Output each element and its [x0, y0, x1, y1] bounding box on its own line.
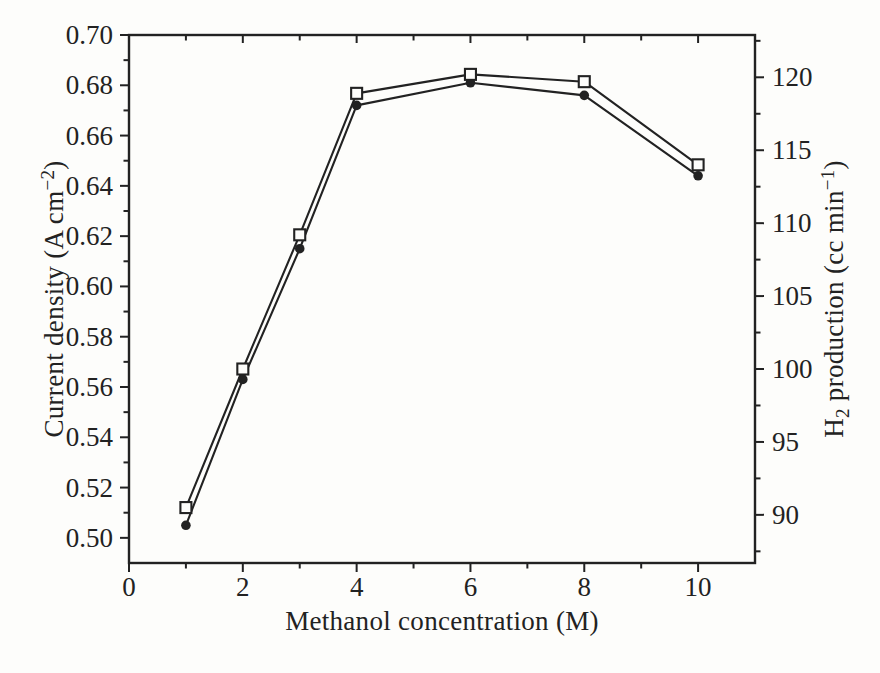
filled-circle-marker: [181, 520, 191, 530]
filled-circle-marker: [579, 91, 589, 101]
x-tick-label: 10: [685, 572, 712, 602]
right-tick-label: 95: [772, 427, 799, 457]
x-tick-label: 0: [122, 572, 136, 602]
open-square-marker: [465, 69, 476, 80]
left-tick-label: 0.56: [66, 372, 113, 402]
open-square-marker: [579, 76, 590, 87]
filled-circle-marker: [295, 244, 305, 254]
open-square-marker: [351, 88, 362, 99]
left-tick-label: 0.52: [66, 473, 113, 503]
chart-figure: 02468100.500.520.540.560.580.600.620.640…: [0, 0, 880, 673]
open-square-marker: [294, 229, 305, 240]
right-tick-label: 90: [772, 500, 799, 530]
right-tick-label: 105: [772, 281, 813, 311]
right-tick-label: 100: [772, 354, 813, 384]
series-line-current-density: [186, 83, 698, 526]
left-tick-label: 0.62: [66, 221, 113, 251]
left-tick-label: 0.68: [66, 70, 113, 100]
series-markers-h2-production: [180, 69, 703, 513]
left-tick-label: 0.64: [66, 171, 114, 201]
series-markers-current-density: [181, 78, 703, 530]
right-axis-title: H2 production (cc min−1): [817, 160, 853, 438]
x-tick-label: 6: [464, 572, 478, 602]
left-tick-labels: 0.500.520.540.560.580.600.620.640.660.68…: [66, 20, 114, 553]
plot-frame: [129, 35, 755, 563]
x-tick-label: 4: [350, 572, 364, 602]
left-tick-label: 0.58: [66, 322, 113, 352]
left-tick-label: 0.50: [66, 523, 113, 553]
right-tick-label: 110: [772, 208, 812, 238]
left-tick-label: 0.66: [66, 121, 113, 151]
open-square-marker: [693, 159, 704, 170]
x-axis-title: Methanol concentration (M): [129, 606, 755, 637]
right-tick-label: 120: [772, 62, 813, 92]
left-tick-label: 0.54: [66, 422, 114, 452]
right-tick-label: 115: [772, 135, 812, 165]
left-axis-title: Current density (A cm−2): [37, 160, 69, 437]
dual-axis-line-chart: 02468100.500.520.540.560.580.600.620.640…: [0, 0, 880, 673]
right-tick-labels: 9095100105110115120: [772, 62, 813, 530]
x-tick-label: 2: [236, 572, 250, 602]
filled-circle-marker: [352, 101, 362, 111]
series-line-h2-production: [186, 74, 698, 507]
filled-circle-marker: [238, 375, 248, 385]
left-tick-label: 0.70: [66, 20, 113, 50]
filled-circle-marker: [693, 171, 703, 181]
left-tick-label: 0.60: [66, 271, 113, 301]
x-tick-label: 8: [578, 572, 592, 602]
open-square-marker: [180, 502, 191, 513]
open-square-marker: [237, 364, 248, 375]
x-tick-labels: 0246810: [122, 572, 711, 602]
axis-ticks: [120, 35, 764, 572]
